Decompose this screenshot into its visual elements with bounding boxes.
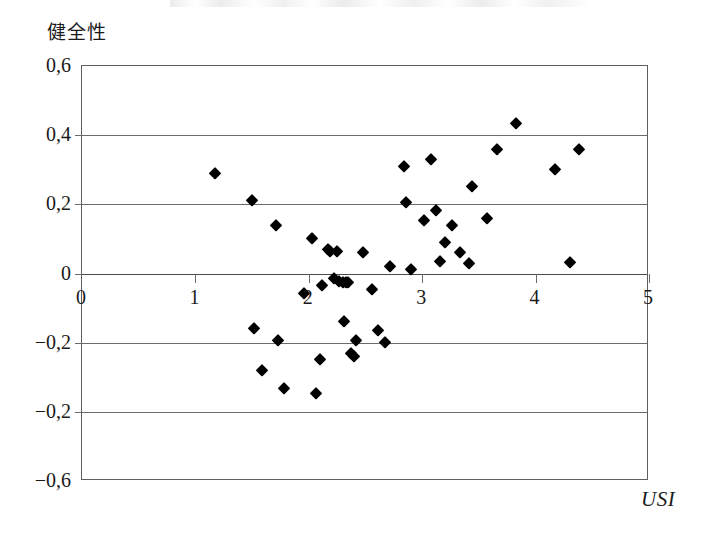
x-tick-label-0: 0 — [61, 287, 101, 307]
y-tick-label-3: 0 — [11, 263, 71, 283]
y-tick--0.4 — [75, 412, 82, 413]
data-point — [491, 143, 503, 155]
data-point — [350, 334, 362, 346]
y-tick--0.2 — [75, 343, 82, 344]
data-point — [306, 232, 318, 244]
x-tick-label-5: 5 — [628, 287, 668, 307]
x-tick-label-1: 1 — [174, 287, 214, 307]
data-point — [366, 283, 378, 295]
data-point — [270, 219, 282, 231]
data-point — [434, 255, 446, 267]
x-axis-line — [82, 274, 647, 275]
y-tick-0.2 — [75, 204, 82, 205]
data-point — [466, 180, 478, 192]
gridline-y--0.4 — [82, 412, 647, 413]
data-point — [481, 212, 493, 224]
page-caption-strip — [170, 0, 590, 7]
x-tick-5 — [649, 274, 650, 283]
data-point — [463, 257, 475, 269]
data-point — [564, 256, 576, 268]
gridline-y--0.2 — [82, 343, 647, 344]
data-point — [338, 315, 350, 327]
data-point — [379, 336, 391, 348]
data-point — [272, 334, 284, 346]
plot-area — [81, 65, 648, 480]
y-tick-0 — [75, 274, 82, 275]
y-tick-label-6: −0,6 — [11, 470, 71, 490]
data-point — [425, 153, 437, 165]
data-point — [331, 245, 343, 257]
data-point — [384, 260, 396, 272]
x-tick-1 — [195, 274, 196, 283]
x-tick-label-3: 3 — [401, 287, 441, 307]
data-point — [454, 246, 466, 258]
data-point — [248, 322, 260, 334]
figure-canvas: 健全性 USI 0,60,40,20−0,2−0,2−0,6012345 — [0, 0, 702, 534]
gridline-y-0.4 — [82, 135, 647, 136]
data-point — [573, 143, 585, 155]
y-tick-label-5: −0,2 — [11, 401, 71, 421]
y-tick-label-2: 0,2 — [11, 193, 71, 213]
data-point — [209, 167, 221, 179]
data-point — [310, 387, 322, 399]
x-tick-4 — [536, 274, 537, 283]
data-point — [418, 214, 430, 226]
y-tick-label-0: 0,6 — [11, 55, 71, 75]
x-tick-label-2: 2 — [288, 287, 328, 307]
data-point — [430, 204, 442, 216]
data-point — [446, 219, 458, 231]
y-axis-title: 健全性 — [47, 17, 107, 44]
y-tick-0.4 — [75, 135, 82, 136]
data-point — [400, 196, 412, 208]
y-tick-label-1: 0,4 — [11, 124, 71, 144]
data-point — [549, 163, 561, 175]
data-point — [278, 382, 290, 394]
x-axis-title: USI — [641, 487, 675, 512]
data-point — [398, 160, 410, 172]
data-point — [256, 364, 268, 376]
x-tick-label-4: 4 — [515, 287, 555, 307]
data-point — [372, 324, 384, 336]
data-point — [439, 236, 451, 248]
y-tick-label-4: −0,2 — [11, 332, 71, 352]
data-point — [510, 117, 522, 129]
x-tick-3 — [422, 274, 423, 283]
x-tick-2 — [309, 274, 310, 283]
data-point — [314, 353, 326, 365]
gridline-y-0.2 — [82, 204, 647, 205]
data-point — [357, 246, 369, 258]
